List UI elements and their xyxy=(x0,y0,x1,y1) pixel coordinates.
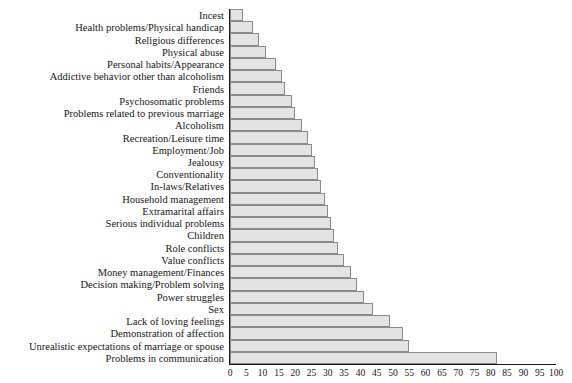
bar-category-label: Decision making/Problem solving xyxy=(81,279,228,290)
x-axis-tick-label: 40 xyxy=(356,368,366,379)
plot-area: IncestHealth problems/Physical handicapR… xyxy=(0,9,572,364)
y-axis-line xyxy=(229,9,230,365)
bar xyxy=(230,131,308,143)
x-axis-tick-label: 20 xyxy=(290,368,300,379)
bar-row: Household management xyxy=(0,193,572,205)
bar-category-label: Recreation/Leisure time xyxy=(123,132,227,143)
bar xyxy=(230,9,243,21)
x-axis-tick-label: 75 xyxy=(470,368,480,379)
bar-category-label: Employment/Job xyxy=(152,144,227,155)
bar-row: Recreation/Leisure time xyxy=(0,131,572,143)
x-axis-tick-label: 50 xyxy=(388,368,398,379)
bar xyxy=(230,315,390,327)
bar xyxy=(230,266,351,278)
bar-category-label: Health problems/Physical handicap xyxy=(75,22,227,33)
bar-category-label: Alcoholism xyxy=(175,120,227,131)
bar-category-label: Role conflicts xyxy=(165,242,227,253)
bar-category-label: Children xyxy=(187,230,227,241)
bar-row: Money management/Finances xyxy=(0,266,572,278)
bar xyxy=(230,46,266,58)
bar xyxy=(230,107,295,119)
bar xyxy=(230,229,334,241)
bar-category-label: Physical abuse xyxy=(162,46,227,57)
bar-row: Personal habits/Appearance xyxy=(0,58,572,70)
bar-category-label: Sex xyxy=(208,303,227,314)
bar-row: Serious individual problems xyxy=(0,217,572,229)
x-axis-tick-label: 70 xyxy=(453,368,463,379)
bar-category-label: Demonstration of affection xyxy=(110,328,227,339)
bar xyxy=(230,58,276,70)
x-axis-tick-label: 90 xyxy=(519,368,529,379)
bar-category-label: Problems related to previous marriage xyxy=(64,108,227,119)
x-axis-tick-label: 100 xyxy=(549,368,563,379)
x-axis-tick-label: 5 xyxy=(244,368,249,379)
x-axis-tick-label: 55 xyxy=(405,368,415,379)
bar-category-label: Jealousy xyxy=(188,157,227,168)
bar-row: Alcoholism xyxy=(0,119,572,131)
chart-title xyxy=(0,0,572,2)
bar-row: Addictive behavior other than alcoholism xyxy=(0,70,572,82)
bar-row: Problems in communication xyxy=(0,352,572,364)
bar xyxy=(230,303,373,315)
bar xyxy=(230,21,253,33)
bar xyxy=(230,327,403,339)
bar xyxy=(230,352,497,364)
bar xyxy=(230,119,302,131)
x-axis-tick-label: 10 xyxy=(258,368,268,379)
bar-row: Power struggles xyxy=(0,291,572,303)
bar-row: Problems related to previous marriage xyxy=(0,107,572,119)
bar-row: Health problems/Physical handicap xyxy=(0,21,572,33)
bar-category-label: Power struggles xyxy=(157,291,227,302)
bar xyxy=(230,95,292,107)
x-axis-tick-label: 35 xyxy=(339,368,349,379)
bar-category-label: Lack of loving feelings xyxy=(126,316,227,327)
bar xyxy=(230,242,338,254)
bar xyxy=(230,168,318,180)
bar-row: Incest xyxy=(0,9,572,21)
bar-row: Sex xyxy=(0,303,572,315)
bar xyxy=(230,156,315,168)
bar-category-label: Money management/Finances xyxy=(98,267,227,278)
bar-category-label: Value conflicts xyxy=(161,254,227,265)
bar xyxy=(230,144,312,156)
x-axis-tick-label: 85 xyxy=(502,368,512,379)
bar-row: Decision making/Problem solving xyxy=(0,278,572,290)
x-axis-tick-label: 30 xyxy=(323,368,333,379)
bar xyxy=(230,254,344,266)
bar-row: Value conflicts xyxy=(0,254,572,266)
x-axis-tick-label: 25 xyxy=(307,368,317,379)
bar xyxy=(230,82,285,94)
bar-category-label: Addictive behavior other than alcoholism xyxy=(50,71,227,82)
bar-row: Demonstration of affection xyxy=(0,327,572,339)
bar-category-label: Incest xyxy=(199,10,227,21)
x-axis-tick-label: 0 xyxy=(228,368,233,379)
bar-category-label: Serious individual problems xyxy=(106,218,227,229)
bar-category-label: Religious differences xyxy=(135,34,227,45)
bar-chart: IncestHealth problems/Physical handicapR… xyxy=(0,0,572,383)
bar-row: Physical abuse xyxy=(0,46,572,58)
bar-row: Lack of loving feelings xyxy=(0,315,572,327)
x-axis-tick-label: 80 xyxy=(486,368,496,379)
bar-category-label: Unrealistic expectations of marriage or … xyxy=(29,340,227,351)
x-axis-line xyxy=(229,364,556,365)
bar xyxy=(230,70,282,82)
bar-row: Jealousy xyxy=(0,156,572,168)
bar-category-label: Friends xyxy=(193,83,228,94)
bar-row: Extramarital affairs xyxy=(0,205,572,217)
bar-row: Employment/Job xyxy=(0,144,572,156)
bar xyxy=(230,291,364,303)
bar-row: Role conflicts xyxy=(0,242,572,254)
x-axis-tick-label: 45 xyxy=(372,368,382,379)
bar xyxy=(230,205,328,217)
bar-row: Children xyxy=(0,229,572,241)
bar xyxy=(230,217,331,229)
bar-row: In-laws/Relatives xyxy=(0,180,572,192)
bar xyxy=(230,180,321,192)
bar xyxy=(230,340,409,352)
bar-category-label: In-laws/Relatives xyxy=(151,181,227,192)
x-axis-tick-label: 95 xyxy=(535,368,545,379)
x-axis-tick-label: 65 xyxy=(437,368,447,379)
bar xyxy=(230,33,259,45)
x-axis-tick-label: 15 xyxy=(274,368,284,379)
bar-category-label: Personal habits/Appearance xyxy=(107,59,227,70)
